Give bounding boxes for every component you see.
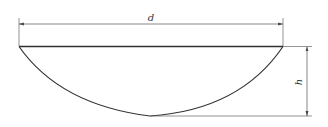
cap-arc bbox=[19, 47, 283, 117]
diagram-svg: d h bbox=[0, 0, 328, 127]
label-d: d bbox=[148, 12, 154, 23]
label-h: h bbox=[293, 79, 304, 85]
spherical-cap-diagram: d h bbox=[0, 0, 328, 127]
